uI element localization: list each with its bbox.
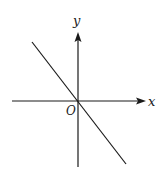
coordinate-plane: y x O: [0, 0, 159, 173]
y-axis-label: y: [72, 13, 81, 28]
origin-label: O: [66, 104, 76, 118]
graph-line: [32, 42, 126, 164]
x-axis-label: x: [148, 94, 156, 109]
